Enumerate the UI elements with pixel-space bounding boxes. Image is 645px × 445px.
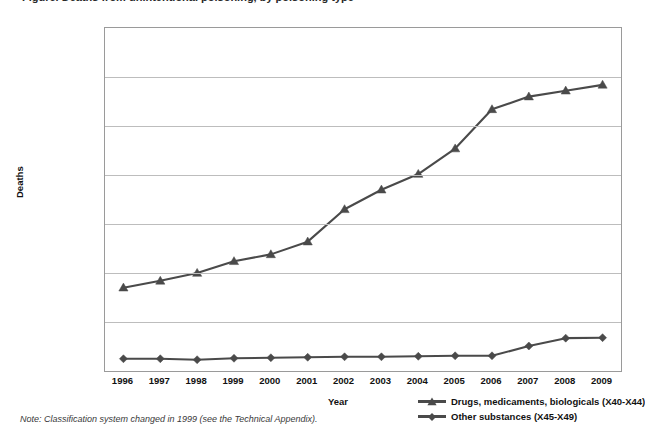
x-tick-label: 2006 [480,375,501,386]
x-tick-label: 2004 [407,375,428,386]
data-point-marker [341,353,349,361]
chart-legend: Drugs, medicaments, biologicals (X40-X44… [418,394,638,424]
data-point-marker [488,352,496,360]
data-point-marker [377,353,385,361]
gridline [105,126,621,127]
data-point-marker [267,354,275,362]
data-point-marker [156,355,164,363]
x-tick-label: 2005 [444,375,465,386]
gridline [105,77,621,78]
page-title: Figure. Deaths from unintentional poison… [22,0,354,3]
data-point-marker [525,342,533,350]
x-tick-label: 2009 [591,375,612,386]
legend-item: Drugs, medicaments, biologicals (X40-X44… [418,394,638,409]
series-line-1 [123,85,602,288]
gridline [105,322,621,323]
gridline [105,224,621,225]
triangle-marker [418,396,446,408]
x-tick-label: 2002 [333,375,354,386]
x-tick-label: 2008 [554,375,575,386]
data-point-marker [562,334,570,342]
figure-note: Note: Classification system changed in 1… [20,414,318,424]
x-tick-label: 1996 [112,375,133,386]
data-point-marker [119,355,127,363]
x-tick-label: 2001 [296,375,317,386]
chart-plot-area [104,27,622,372]
data-point-marker [304,353,312,361]
chart-series-layer [105,28,621,371]
series-line-2 [123,338,602,360]
gridline [105,273,621,274]
data-point-marker [193,356,201,364]
x-tick-label: 1997 [149,375,170,386]
x-tick-label: 2007 [517,375,538,386]
x-tick-label: 2000 [259,375,280,386]
data-point-marker [230,354,238,362]
legend-item: Other substances (X45-X49) [418,409,638,424]
data-point-marker [599,334,607,342]
legend-label: Other substances (X45-X49) [451,411,577,422]
x-tick-label: 2003 [370,375,391,386]
y-axis-title: Deaths [14,166,25,198]
figure-title-strip: Figure. Deaths from unintentional poison… [0,0,638,7]
legend-label: Drugs, medicaments, biologicals (X40-X44… [451,396,645,407]
data-point-marker [451,352,459,360]
data-point-marker [414,352,422,360]
x-tick-label: 1998 [186,375,207,386]
x-axis-title: Year [328,396,348,407]
diamond-marker [418,411,446,423]
gridline [105,175,621,176]
data-point-marker [598,80,607,88]
x-tick-label: 1999 [222,375,243,386]
